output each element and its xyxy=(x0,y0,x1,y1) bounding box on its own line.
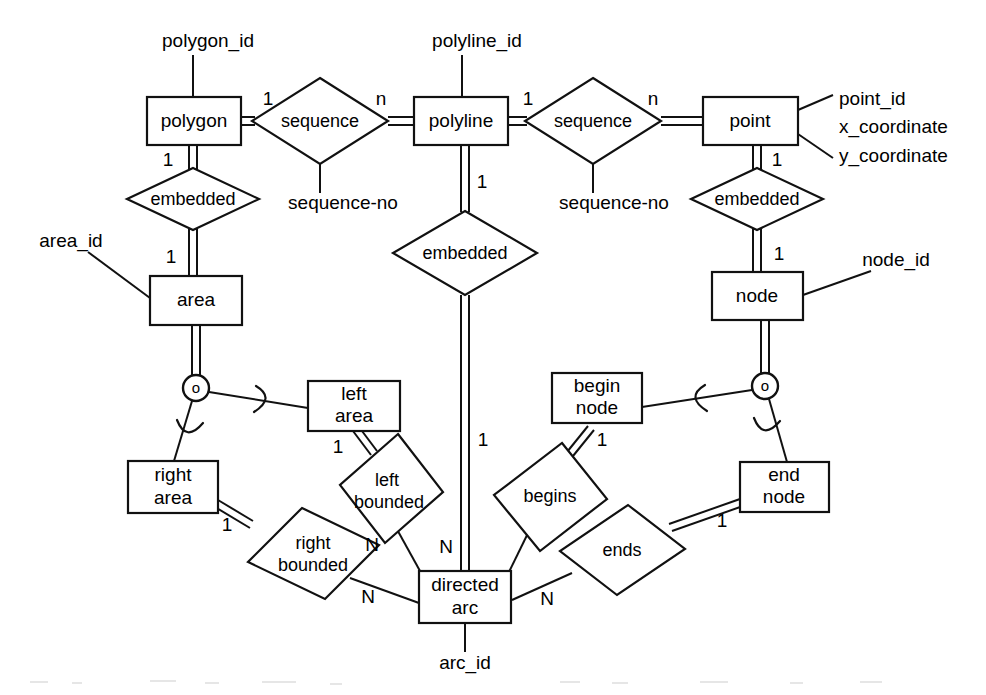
attribute-node-id: node_id xyxy=(862,249,930,271)
entity-right-area[interactable]: right area xyxy=(128,461,218,513)
cardinality-rightarea-bounded: 1 xyxy=(222,514,233,535)
relationship-left-bounded[interactable]: left bounded xyxy=(340,434,443,543)
entity-end-node[interactable]: end node xyxy=(740,462,829,512)
er-diagram-svg: polygon polyline point area node left xyxy=(0,0,986,695)
relationship-embedded-mid-label: embedded xyxy=(422,243,507,263)
attribute-sequence-no-1: sequence-no xyxy=(288,192,398,213)
relationship-embedded-polyline-arc[interactable]: embedded xyxy=(393,211,537,295)
entity-begin-node-label-line2: node xyxy=(576,397,618,418)
cardinality-rightbounded-arc: N xyxy=(361,586,375,607)
entity-left-area[interactable]: left area xyxy=(308,381,400,431)
relationship-right-bounded-label-line1: right xyxy=(295,533,330,553)
cardinality-beginnode-begins: 1 xyxy=(597,429,608,450)
entity-polyline[interactable]: polyline xyxy=(414,97,508,145)
attr-stem-xy-coordinate xyxy=(798,134,833,158)
entity-begin-node[interactable]: begin node xyxy=(552,373,642,423)
cardinality-polyline-embedded: 1 xyxy=(477,171,488,192)
er-diagram-canvas: polygon polyline point area node left xyxy=(0,0,986,695)
relationship-embedded-right-label: embedded xyxy=(714,189,799,209)
attr-stem-point-id xyxy=(798,95,833,110)
link-leftarea-leftbounded-a xyxy=(353,431,371,455)
attr-stem-area-id xyxy=(88,252,150,298)
entity-area[interactable]: area xyxy=(150,276,242,325)
attr-stem-node-id xyxy=(803,271,871,295)
link-rightarea-rightbounded-b xyxy=(215,507,250,528)
link-beginnode-begins-b xyxy=(573,430,594,456)
attribute-point-id: point_id xyxy=(839,88,906,110)
entity-area-label: area xyxy=(177,289,215,310)
cardinality-endnode-ends: 1 xyxy=(717,510,728,531)
entity-directed-arc[interactable]: directed arc xyxy=(419,571,511,623)
cardinality-polyline-sequence: 1 xyxy=(523,88,534,109)
attribute-x-coordinate: x_coordinate xyxy=(839,116,948,138)
attribute-sequence-no-2: sequence-no xyxy=(559,192,669,213)
subset-arc-right-area-icon xyxy=(177,420,203,432)
relationship-sequence-2[interactable]: sequence xyxy=(525,78,661,164)
entity-polygon[interactable]: polygon xyxy=(147,97,241,145)
entity-left-area-label-line2: area xyxy=(335,405,373,426)
entity-point-label: point xyxy=(729,110,771,131)
relationship-embedded-point-node[interactable]: embedded xyxy=(691,168,823,230)
attribute-polygon-id: polygon_id xyxy=(162,30,254,52)
entity-right-area-label-line2: area xyxy=(154,487,192,508)
entity-left-area-label-line1: left xyxy=(341,383,367,404)
cardinality-embedded-directedarc: 1 xyxy=(478,429,489,450)
subtype-circle-left-label: o xyxy=(192,379,200,396)
link-beginnode-begins-a xyxy=(567,426,588,452)
cardinality-sequence-polyline: n xyxy=(376,88,387,109)
attribute-polyline-id: polyline_id xyxy=(432,30,522,52)
relationship-right-bounded[interactable]: right bounded xyxy=(248,508,379,599)
relationship-embedded-left-label: embedded xyxy=(150,189,235,209)
subset-arc-end-node-icon xyxy=(754,418,780,430)
relationship-left-bounded-label-line1: left xyxy=(375,470,399,490)
scan-artifacts xyxy=(30,680,882,685)
entity-node[interactable]: node xyxy=(712,272,803,320)
relationship-begins-label: begins xyxy=(523,486,576,506)
relationship-ends-label: ends xyxy=(602,540,641,560)
cardinality-begins-arc: N xyxy=(439,536,453,557)
attribute-arc-id: arc_id xyxy=(439,652,491,674)
subtype-circle-right[interactable]: o xyxy=(752,373,778,399)
entity-end-node-label-line1: end xyxy=(768,464,800,485)
entity-directed-arc-label-line2: arc xyxy=(452,597,478,618)
relationship-left-bounded-label-line2: bounded xyxy=(354,492,424,512)
cardinality-embedded-area: 1 xyxy=(166,246,177,267)
subtype-circle-right-label: o xyxy=(761,377,769,394)
entity-directed-arc-label-line1: directed xyxy=(431,574,499,595)
entity-polyline-label: polyline xyxy=(429,110,493,131)
cardinality-sequence-point: n xyxy=(648,88,659,109)
cardinality-point-embedded: 1 xyxy=(772,149,783,170)
entity-polygon-label: polygon xyxy=(161,110,228,131)
attribute-y-coordinate: y_coordinate xyxy=(839,145,948,167)
cardinality-leftarea-bounded: 1 xyxy=(333,436,344,457)
relationship-right-bounded-label-line2: bounded xyxy=(278,555,348,575)
relationship-sequence-1-label: sequence xyxy=(281,111,359,131)
relationship-right-bounded-diamond[interactable] xyxy=(248,508,379,599)
entity-end-node-label-line2: node xyxy=(763,486,805,507)
entity-point[interactable]: point xyxy=(703,97,798,145)
attribute-area-id: area_id xyxy=(39,230,102,252)
subtype-symbols: o o xyxy=(177,373,780,432)
cardinality-embedded-node: 1 xyxy=(774,243,785,264)
relationship-embedded-polygon-area[interactable]: embedded xyxy=(127,168,259,230)
relationship-sequence-2-label: sequence xyxy=(554,111,632,131)
cardinality-labels: 1 n 1 n 1 1 1 1 1 1 1 1 1 1 N N N N xyxy=(163,88,785,609)
link-subtypecircle-endnode xyxy=(769,399,787,462)
link-subtypecircle-leftarea xyxy=(209,392,308,408)
entity-begin-node-label-line1: begin xyxy=(574,375,621,396)
subtype-circle-left[interactable]: o xyxy=(183,375,209,401)
entity-right-area-label-line1: right xyxy=(155,464,193,485)
cardinality-polygon-embedded: 1 xyxy=(163,149,174,170)
cardinality-leftbounded-arc: N xyxy=(365,534,379,555)
cardinality-ends-arc: N xyxy=(540,588,554,609)
cardinality-polygon-sequence: 1 xyxy=(263,88,274,109)
entity-node-label: node xyxy=(736,285,778,306)
